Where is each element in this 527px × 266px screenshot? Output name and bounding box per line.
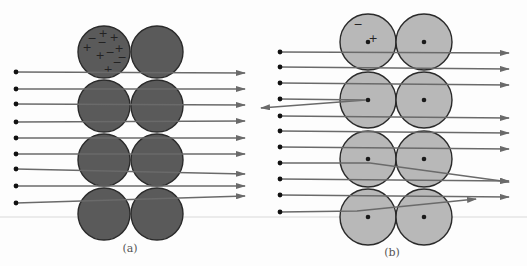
nucleus-dot: [422, 215, 427, 220]
source-dot: [14, 120, 19, 125]
alpha-particle-ray: [16, 72, 245, 73]
alpha-rays-group: [261, 50, 509, 215]
source-dot: [14, 102, 19, 107]
nucleus-dot: [422, 157, 427, 162]
nucleus-dot: [366, 215, 371, 220]
nucleus-dot: [422, 98, 427, 103]
source-dot: [14, 152, 19, 157]
alpha-particle-ray: [280, 195, 509, 197]
atoms-group: [78, 26, 183, 240]
nucleus-dot: [366, 98, 371, 103]
atom-circle: [78, 188, 130, 240]
positive-charge-sign: +: [95, 49, 104, 62]
source-dot: [278, 145, 283, 150]
source-dot: [278, 193, 283, 198]
alpha-particle-ray: [16, 104, 245, 105]
source-dot: [14, 167, 19, 172]
atom-circle: [131, 134, 183, 186]
source-dot: [14, 70, 19, 75]
rutherford-scattering-figure: ++++++−−−−−(a) −+(b): [0, 0, 527, 266]
source-dot: [278, 129, 283, 134]
panel-a-plum-pudding-model: ++++++−−−−−(a): [14, 26, 245, 255]
source-dot: [278, 65, 283, 70]
alpha-particle-ray: [280, 131, 509, 133]
atom-circle: [131, 80, 183, 132]
source-dot: [278, 50, 283, 55]
alpha-particle-ray: [16, 196, 245, 203]
positive-charge-sign: +: [368, 32, 377, 45]
nucleus-dot: [366, 157, 371, 162]
alpha-particle-ray: [280, 52, 509, 53]
alpha-particle-ray: [280, 179, 509, 181]
source-dot: [278, 210, 283, 215]
source-dot: [14, 136, 19, 141]
negative-charge-sign: −: [87, 32, 96, 45]
panel-caption: (a): [122, 242, 137, 255]
source-dot: [14, 201, 19, 206]
nucleus-dot: [422, 40, 427, 45]
source-dot: [14, 184, 19, 189]
panel-caption: (b): [384, 246, 400, 259]
panel-b-nuclear-model: −+(b): [261, 14, 509, 259]
alpha-particle-ray: [280, 83, 509, 85]
alpha-rays-group: [14, 70, 245, 206]
alpha-particle-ray: [16, 169, 245, 174]
atom-circle: [78, 134, 130, 186]
alpha-particle-ray: [280, 67, 509, 69]
atom-circle: [131, 26, 183, 78]
source-dot: [278, 81, 283, 86]
alpha-particle-ray: [280, 147, 509, 149]
source-dot: [278, 114, 283, 119]
atom-circle: [78, 80, 130, 132]
atom-circle: [131, 188, 183, 240]
source-dot: [278, 177, 283, 182]
negative-charge-sign: −: [353, 18, 362, 31]
positive-charge-sign: +: [103, 63, 112, 76]
source-dot: [14, 87, 19, 92]
alpha-particle-ray: [16, 121, 245, 122]
source-dot: [278, 161, 283, 166]
negative-charge-sign: −: [112, 56, 121, 69]
source-dot: [278, 97, 283, 102]
alpha-particle-ray: [280, 116, 509, 118]
